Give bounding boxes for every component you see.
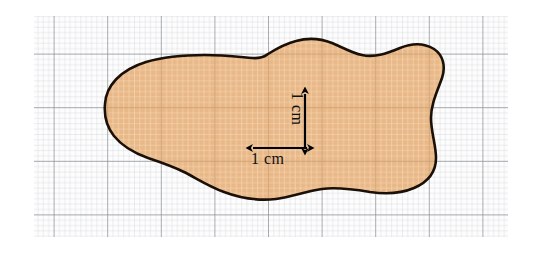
vertical-scale-label: 1 cm <box>288 92 306 126</box>
figure-canvas <box>0 0 533 257</box>
horizontal-scale-label: 1 cm <box>251 150 285 168</box>
graph-paper <box>34 16 508 237</box>
graph-paper-figure: 1 cm 1 cm <box>0 0 533 257</box>
